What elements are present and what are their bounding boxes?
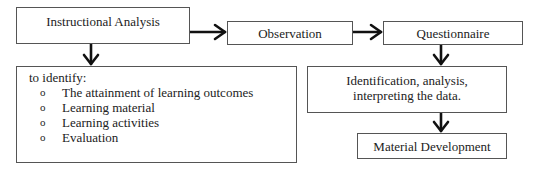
node-label: Questionnaire	[417, 26, 490, 41]
list-item: oLearning activities	[29, 115, 296, 130]
node-observation: Observation	[227, 21, 353, 45]
identify-heading: to identify:	[29, 70, 296, 85]
circle-bullet-icon: o	[40, 115, 46, 130]
list-item: oEvaluation	[29, 130, 296, 145]
node-label-line: Identification, analysis,	[308, 73, 506, 88]
node-material-development: Material Development	[357, 133, 507, 159]
node-label: Material Development	[373, 139, 490, 154]
node-identification: Identification, analysis, interpreting t…	[307, 66, 507, 113]
node-questionnaire: Questionnaire	[383, 21, 523, 45]
circle-bullet-icon: o	[40, 130, 46, 145]
list-item: oLearning material	[29, 100, 296, 115]
list-item: oThe attainment of learning outcomes	[29, 85, 296, 100]
node-label: Observation	[258, 26, 322, 41]
node-instructional-analysis: Instructional Analysis	[16, 7, 190, 44]
circle-bullet-icon: o	[40, 85, 46, 100]
node-identify-list: to identify: oThe attainment of learning…	[16, 66, 297, 163]
identify-items: oThe attainment of learning outcomes oLe…	[29, 85, 296, 145]
node-label-line: interpreting the data.	[308, 88, 506, 103]
circle-bullet-icon: o	[40, 100, 46, 115]
node-label: Instructional Analysis	[46, 14, 160, 29]
